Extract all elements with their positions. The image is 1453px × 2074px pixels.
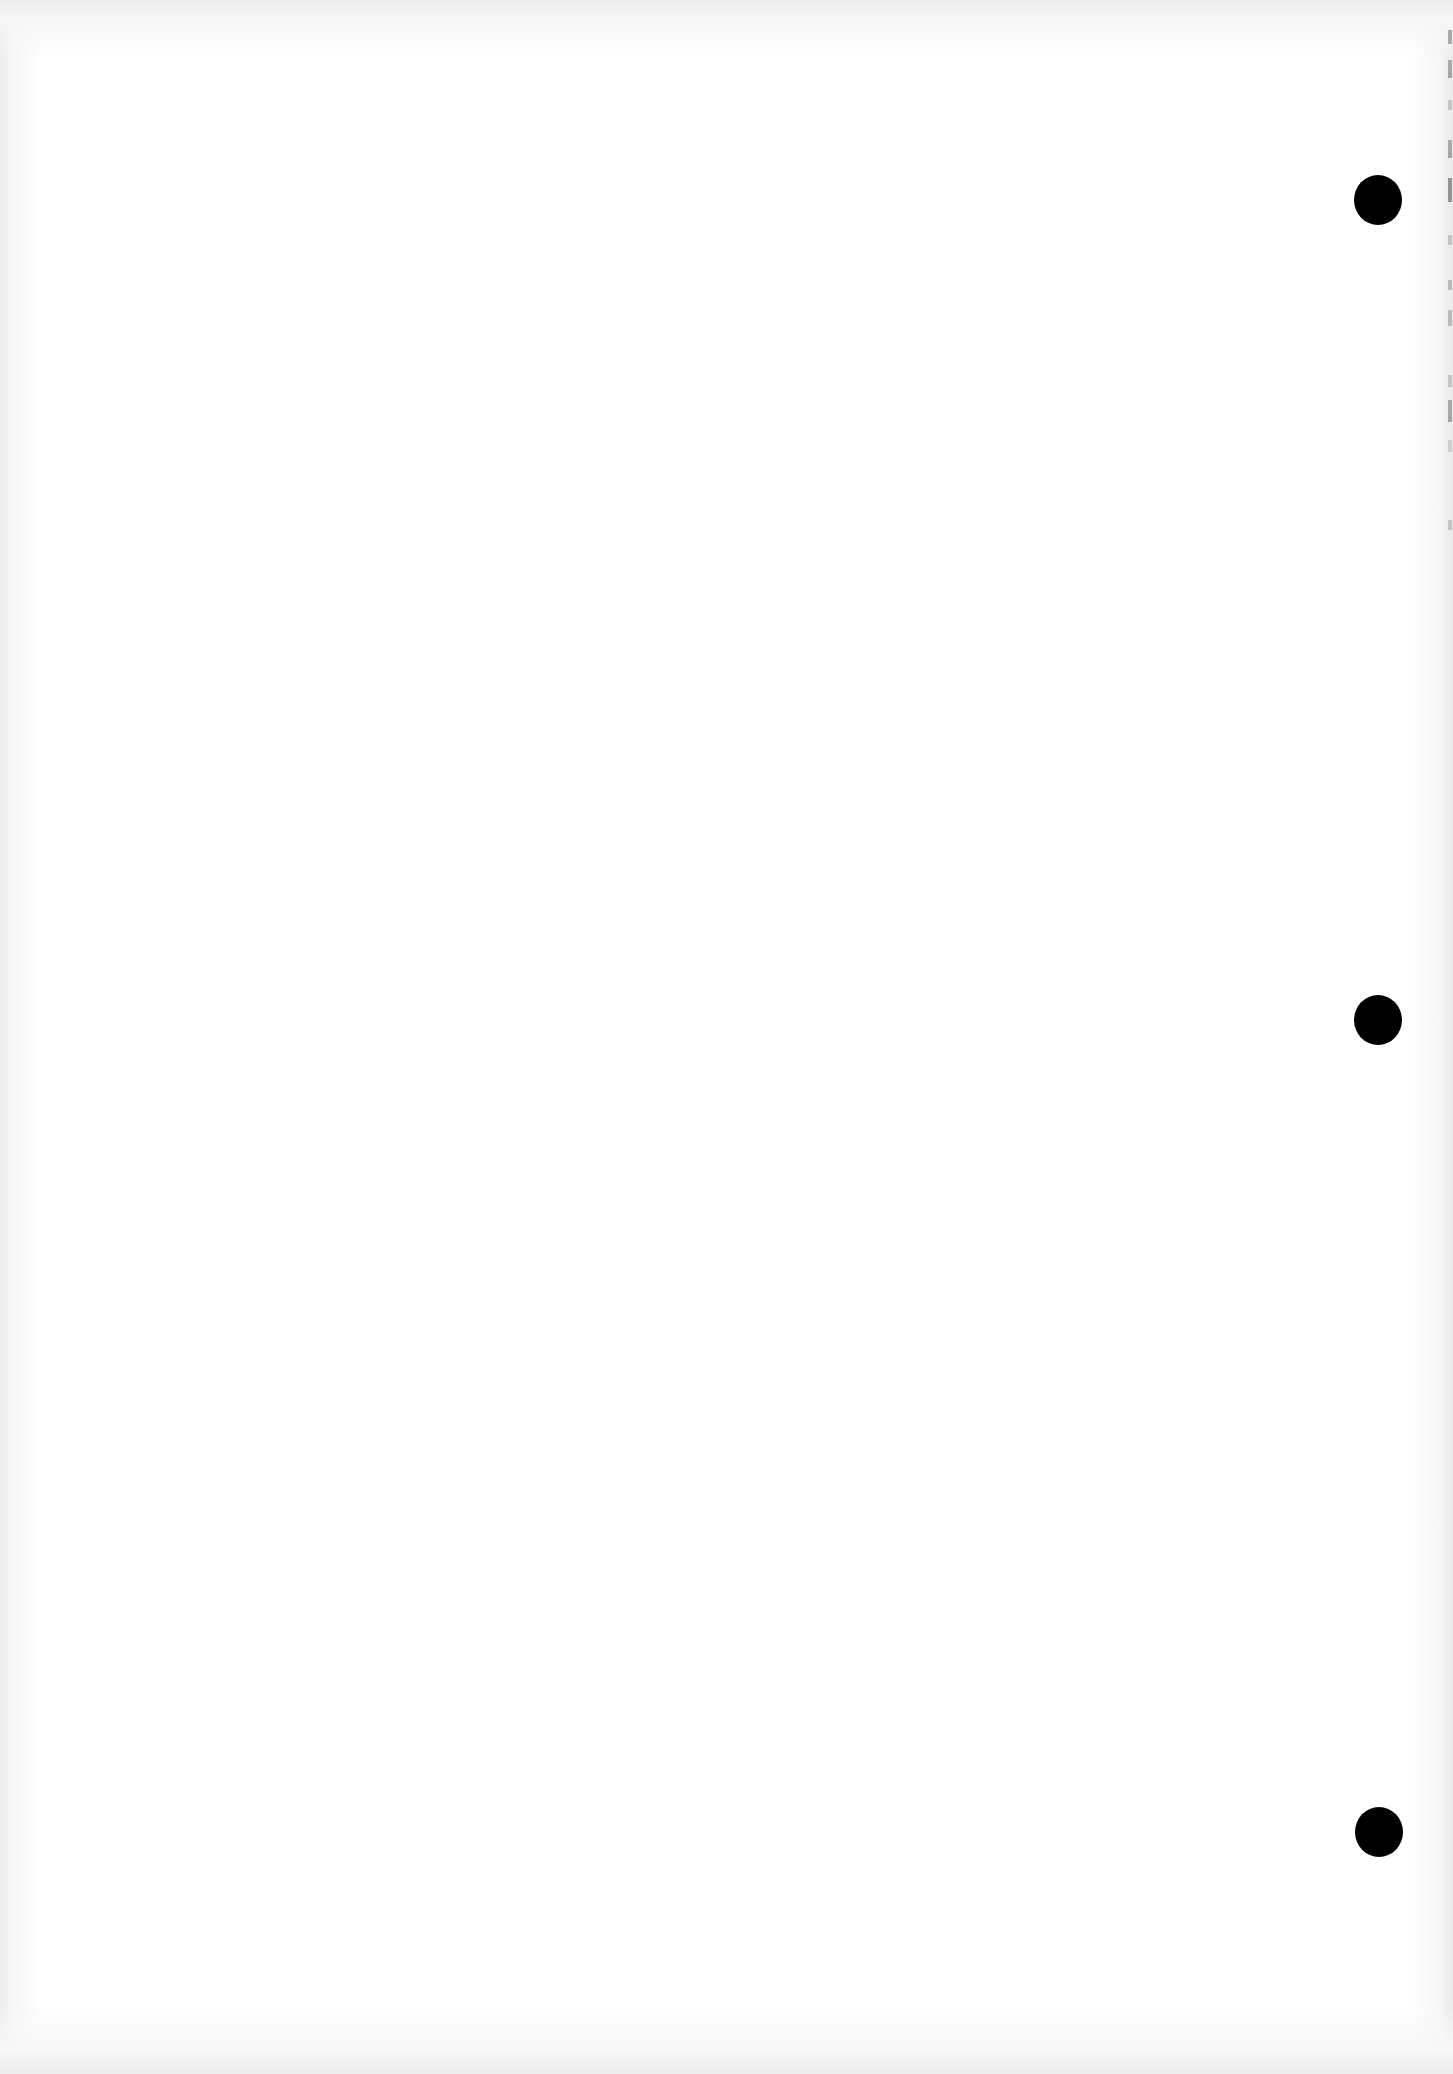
edge-mark <box>1448 178 1452 202</box>
edge-mark <box>1448 140 1452 158</box>
edge-mark <box>1448 375 1452 387</box>
edge-bleed-marks <box>1445 0 1453 600</box>
edge-mark <box>1448 100 1452 110</box>
blank-sheet <box>0 0 1453 2074</box>
edge-mark <box>1448 60 1452 78</box>
edge-mark <box>1448 235 1452 245</box>
edge-mark <box>1448 280 1452 290</box>
edge-mark <box>1448 30 1452 44</box>
punch-hole-top <box>1354 175 1402 225</box>
edge-mark <box>1448 520 1452 530</box>
edge-mark <box>1448 310 1452 326</box>
punch-hole-bottom <box>1355 1807 1403 1857</box>
edge-mark <box>1448 400 1452 422</box>
punch-hole-middle <box>1354 995 1402 1045</box>
edge-mark <box>1448 440 1452 452</box>
